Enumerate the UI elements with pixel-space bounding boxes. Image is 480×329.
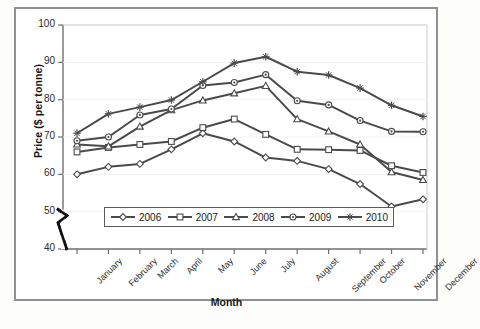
x-axis-title: Month [0, 296, 453, 308]
legend-item-2009[interactable]: 2009 [280, 210, 331, 224]
y-axis-title: Price ($ per tonne) [32, 41, 44, 181]
y-tick-label: 100 [29, 18, 55, 29]
legend-label: 2010 [366, 212, 388, 223]
legend-label: 2009 [309, 212, 331, 223]
legend-item-2008[interactable]: 2008 [223, 210, 274, 224]
legend-marker-triangle-icon [223, 210, 249, 224]
legend-item-2007[interactable]: 2007 [167, 210, 218, 224]
legend-label: 2008 [252, 212, 274, 223]
chart-legend: 20062007200820092010 [104, 207, 394, 227]
legend-item-2010[interactable]: 2010 [337, 210, 388, 224]
y-tick-label: 50 [29, 205, 55, 216]
legend-marker-square-icon [167, 210, 193, 224]
chart-outer-frame: 100908070605040 JanuaryFebruaryMarchApri… [14, 7, 438, 301]
y-tick-label: 40 [29, 242, 55, 253]
legend-label: 2007 [196, 212, 218, 223]
legend-label: 2006 [139, 212, 161, 223]
legend-marker-circle-icon [280, 210, 306, 224]
legend-marker-diamond-icon [110, 210, 136, 224]
legend-item-2006[interactable]: 2006 [110, 210, 161, 224]
line-chart-plot [16, 9, 436, 299]
legend-marker-star-icon [337, 210, 363, 224]
